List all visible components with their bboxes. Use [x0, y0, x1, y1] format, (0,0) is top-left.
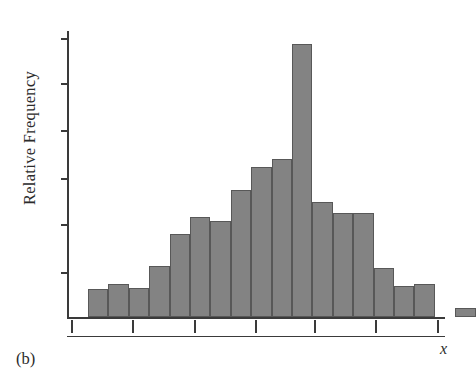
- histogram-bar: [231, 190, 251, 317]
- histogram-bar: [455, 308, 475, 317]
- x-axis-tick: [132, 320, 134, 333]
- histogram-bar: [353, 213, 373, 317]
- x-axis-tick: [437, 320, 439, 333]
- histogram-bar: [414, 284, 434, 317]
- histogram-bar: [170, 234, 190, 317]
- x-axis-lower-rule: [67, 336, 445, 337]
- histogram-bar: [190, 217, 210, 317]
- histogram-bar: [88, 289, 108, 317]
- histogram-bar: [149, 266, 169, 317]
- x-axis-tick: [375, 320, 377, 333]
- plot-area: [68, 31, 438, 317]
- histogram-bar: [394, 286, 414, 317]
- histogram-bar: [333, 213, 353, 317]
- y-axis-label: Relative Frequency: [20, 38, 40, 238]
- x-axis-line: [67, 317, 445, 319]
- x-axis-tick: [71, 320, 73, 333]
- x-axis-tick: [255, 320, 257, 333]
- histogram-bar: [374, 268, 394, 317]
- panel-label: (b): [16, 349, 35, 369]
- histogram-bar: [292, 44, 312, 317]
- x-axis-label: x: [440, 340, 447, 358]
- histogram-bar: [108, 284, 128, 317]
- x-axis-tick: [314, 320, 316, 333]
- histogram-bar: [312, 202, 332, 317]
- histogram-bar: [272, 159, 292, 317]
- x-axis-tick: [194, 320, 196, 333]
- histogram-bar: [129, 288, 149, 317]
- histogram-bar: [251, 167, 271, 317]
- histogram-bar: [210, 221, 230, 317]
